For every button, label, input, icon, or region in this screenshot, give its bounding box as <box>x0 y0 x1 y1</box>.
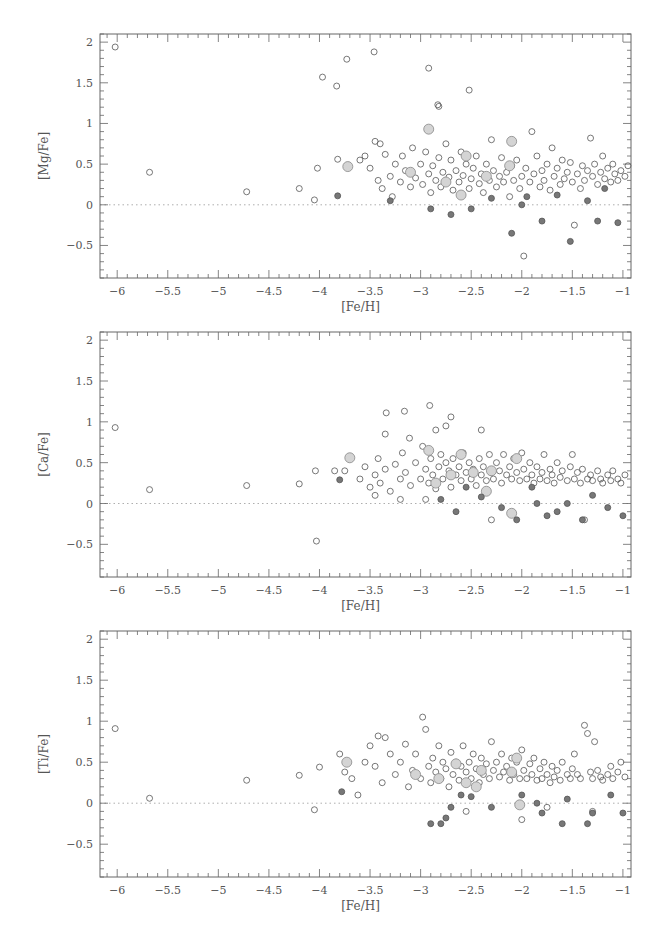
data-point <box>406 167 416 177</box>
data-point <box>451 759 461 769</box>
series-open <box>112 403 628 545</box>
data-point <box>590 776 596 782</box>
data-point <box>581 722 587 728</box>
data-point <box>466 87 472 93</box>
x-tick-label: −2 <box>514 584 530 597</box>
data-point <box>547 780 553 786</box>
data-point <box>569 452 575 458</box>
data-point <box>405 784 411 790</box>
data-point <box>600 153 606 159</box>
series-open <box>112 714 628 823</box>
data-point <box>427 403 433 409</box>
data-point <box>478 472 484 478</box>
data-point <box>588 135 594 141</box>
y-tick-label: 1.5 <box>76 375 94 388</box>
data-point <box>537 766 543 772</box>
panel-3: −6−5.5−5−4.5−4−3.5−3−2.5−2−1.5−1−0.500.5… <box>37 631 631 913</box>
data-point <box>483 478 489 484</box>
data-point <box>379 186 385 192</box>
data-point <box>423 496 429 502</box>
data-point <box>497 468 503 474</box>
data-point <box>443 460 449 466</box>
data-point <box>450 772 456 778</box>
data-point <box>443 141 449 147</box>
data-point <box>501 452 507 458</box>
data-point <box>547 466 553 472</box>
data-point <box>490 168 496 174</box>
data-point <box>382 466 388 472</box>
data-point <box>345 453 355 463</box>
data-point <box>430 163 436 169</box>
data-point <box>567 464 573 470</box>
data-point <box>337 751 343 757</box>
data-point <box>450 187 456 193</box>
data-point <box>392 772 398 778</box>
data-point <box>615 476 621 482</box>
data-point <box>420 714 426 720</box>
x-tick-label: −4.5 <box>256 285 283 298</box>
data-point <box>486 466 496 476</box>
data-point <box>296 481 302 487</box>
data-point <box>519 792 525 798</box>
data-point <box>620 513 626 519</box>
x-tick-label: −3.5 <box>357 584 384 597</box>
data-point <box>433 177 439 183</box>
data-point <box>524 476 530 482</box>
data-point <box>443 815 449 821</box>
y-tick-label: −0.5 <box>66 239 93 252</box>
data-point <box>375 456 381 462</box>
data-point <box>574 171 580 177</box>
data-point <box>426 171 432 177</box>
y-tick-label: 2 <box>86 334 93 347</box>
data-point <box>504 472 510 478</box>
data-point <box>367 743 373 749</box>
data-point <box>554 767 560 773</box>
data-point <box>618 759 624 765</box>
data-point <box>588 769 594 775</box>
data-point <box>521 767 527 773</box>
data-point <box>337 477 343 483</box>
data-point <box>448 414 454 420</box>
data-point <box>512 753 522 763</box>
data-point <box>590 492 596 498</box>
data-point <box>577 776 583 782</box>
data-point <box>539 810 545 816</box>
data-point <box>448 804 454 810</box>
y-tick-label: 1.5 <box>76 674 94 687</box>
data-point <box>507 464 513 470</box>
data-point <box>610 161 616 167</box>
data-point <box>408 184 414 190</box>
data-point <box>372 472 378 478</box>
data-point <box>428 780 434 786</box>
data-point <box>399 153 405 159</box>
data-point <box>450 456 456 462</box>
data-point <box>480 464 486 470</box>
x-tick-label: −3.5 <box>357 884 384 897</box>
data-point <box>588 472 594 478</box>
data-point <box>622 472 628 478</box>
data-point <box>579 163 585 169</box>
x-tick-label: −5 <box>210 285 226 298</box>
data-point <box>112 44 118 50</box>
y-ticks <box>100 332 631 577</box>
data-point <box>436 743 442 749</box>
data-point <box>473 153 479 159</box>
data-point <box>517 478 523 484</box>
data-point <box>375 733 381 739</box>
data-point <box>367 165 373 171</box>
data-point <box>379 780 385 786</box>
data-point <box>507 508 517 518</box>
x-axis-title: [Fe/H] <box>341 300 380 314</box>
data-point <box>537 184 543 190</box>
data-point <box>511 177 517 183</box>
data-point <box>446 470 456 480</box>
data-point <box>567 776 573 782</box>
data-point <box>554 165 560 171</box>
y-tick-label: 2 <box>86 36 93 49</box>
data-point <box>147 487 153 493</box>
data-point <box>399 450 405 456</box>
data-point <box>468 206 474 212</box>
data-point <box>564 478 570 484</box>
y-tick-label: 1 <box>86 715 93 728</box>
x-tick-label: −1 <box>615 584 631 597</box>
